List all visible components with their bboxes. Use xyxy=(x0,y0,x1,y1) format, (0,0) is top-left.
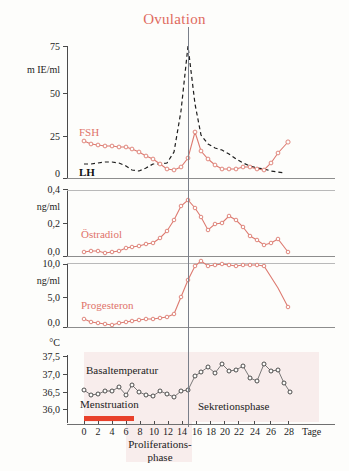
xtick-label-28: 28 xyxy=(280,426,298,437)
cycle-chart-figure: Ovulation m IE/ml 75 50 25 0 FSH LH xyxy=(0,0,349,471)
xtickmark-24 xyxy=(254,421,255,424)
xaxis-line xyxy=(67,424,335,425)
xtick-label-26: 26 xyxy=(262,426,280,437)
xtickmark-26 xyxy=(270,421,271,424)
xtickmark-16 xyxy=(196,421,197,424)
ovulation-guideline xyxy=(188,27,189,427)
xtickmark-2 xyxy=(98,421,99,424)
xtickmark-4 xyxy=(112,421,113,424)
xtickmark-28 xyxy=(288,421,289,424)
xtickmark-20 xyxy=(224,421,225,424)
xtickmark-14 xyxy=(182,421,183,424)
phase-label-menstruation: Menstruation xyxy=(80,398,139,410)
xtickmark-22 xyxy=(238,421,239,424)
phase-label-proliferation-line1: Proliferations- xyxy=(118,438,202,450)
phase-label-proliferation-line2: phase xyxy=(118,451,202,463)
xtickmark-6 xyxy=(126,421,127,424)
xtickmark-12 xyxy=(168,421,169,424)
xtickmark-8 xyxy=(140,421,141,424)
xtickmark-18 xyxy=(210,421,211,424)
xaxis-title-tage: Tage xyxy=(302,426,336,437)
phase-label-secretion: Sekretionsphase xyxy=(198,400,269,412)
xtickmark-10 xyxy=(154,421,155,424)
markers-basaltemperatur xyxy=(82,362,292,399)
plot-temperature xyxy=(0,0,349,471)
xtickmark-0 xyxy=(84,421,85,424)
